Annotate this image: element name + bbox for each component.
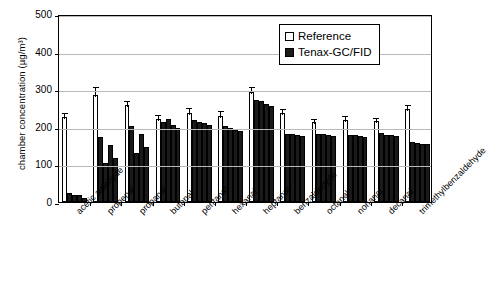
legend-swatch-reference-icon — [285, 32, 294, 41]
bar-tenax — [363, 137, 368, 202]
error-bar — [64, 113, 65, 120]
y-tick-label: 0 — [18, 197, 52, 208]
bar-tenax — [331, 136, 336, 202]
error-bar-cap — [342, 116, 348, 117]
error-bar — [189, 108, 190, 115]
bar-group — [246, 16, 277, 202]
error-bar-cap — [155, 115, 161, 116]
bar-group — [215, 16, 246, 202]
y-tick-label: 200 — [18, 122, 52, 133]
x-tick-mark — [246, 202, 247, 206]
bar-group — [184, 16, 215, 202]
y-axis-tick-labels: 0100200300400500 — [14, 0, 52, 302]
y-tick-label: 500 — [18, 9, 52, 20]
bar-reference — [62, 117, 67, 202]
x-tick-mark — [184, 202, 185, 206]
x-tick-mark — [371, 202, 372, 206]
error-bar-cap — [311, 119, 317, 120]
y-tick-mark — [55, 166, 59, 167]
legend-item-reference: Reference — [285, 28, 372, 44]
y-tick-mark — [55, 91, 59, 92]
bar-tenax — [269, 106, 274, 202]
x-tick-mark — [90, 202, 91, 206]
gridline — [59, 91, 431, 92]
error-bar-cap — [249, 87, 255, 88]
legend-swatch-tenax-icon — [285, 48, 294, 57]
bar-tenax — [300, 136, 305, 202]
bar-tenax — [144, 147, 149, 202]
y-tick-mark — [55, 16, 59, 17]
legend-item-tenax: Tenax-GC/FID — [285, 44, 372, 60]
x-tick-mark — [402, 202, 403, 206]
y-tick-label: 100 — [18, 159, 52, 170]
bar-group — [153, 16, 184, 202]
bar-tenax — [394, 136, 399, 202]
chart-legend: Reference Tenax-GC/FID — [279, 24, 380, 65]
error-bar-cap — [218, 111, 224, 112]
bar-tenax — [207, 125, 212, 202]
error-bar — [220, 111, 221, 118]
gridline — [59, 166, 431, 167]
error-bar-cap — [186, 108, 192, 109]
x-tick-mark — [340, 202, 341, 206]
y-tick-label: 400 — [18, 47, 52, 58]
error-bar-cap — [62, 113, 68, 114]
y-tick-mark — [55, 204, 59, 205]
error-bar-cap — [405, 105, 411, 106]
bar-group — [402, 16, 433, 202]
error-bar-cap — [124, 101, 130, 102]
legend-label-tenax: Tenax-GC/FID — [298, 44, 372, 60]
x-tick-mark — [308, 202, 309, 206]
x-tick-mark — [153, 202, 154, 206]
bar-tenax — [82, 198, 87, 202]
bar-group — [121, 16, 152, 202]
error-bar-cap — [93, 87, 99, 88]
error-bar-cap — [373, 118, 379, 119]
bar-tenax — [425, 144, 430, 202]
bar-tenax — [113, 158, 118, 202]
bar-group — [59, 16, 90, 202]
y-tick-mark — [55, 129, 59, 130]
x-tick-mark — [277, 202, 278, 206]
gridline — [59, 16, 431, 17]
y-tick-label: 300 — [18, 84, 52, 95]
x-tick-mark — [215, 202, 216, 206]
bar-group — [90, 16, 121, 202]
y-tick-mark — [55, 54, 59, 55]
legend-label-reference: Reference — [298, 28, 351, 44]
error-bar-cap — [280, 109, 286, 110]
bar-tenax — [176, 128, 181, 202]
gridline — [59, 129, 431, 130]
x-tick-mark — [121, 202, 122, 206]
